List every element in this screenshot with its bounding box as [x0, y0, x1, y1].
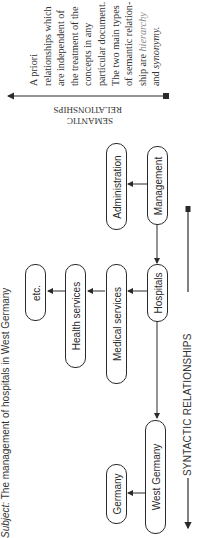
- node-health-services-label: Health services: [70, 282, 81, 350]
- desc-line: particular document.: [95, 0, 109, 86]
- semantic-relationships-label: SEMANTIC RELATIONSHIPS: [58, 104, 122, 126]
- desc-line: are independent of: [54, 0, 68, 86]
- node-germany: Germany: [106, 464, 127, 524]
- desc-line: concepts in any: [81, 0, 95, 86]
- desc-emphasis: synonymy.: [150, 27, 161, 69]
- desc-line: relationships which: [41, 0, 55, 86]
- node-west-germany: West Germany: [145, 420, 166, 534]
- desc-line: A priori: [27, 0, 41, 86]
- semantic-label-line1: SEMANTIC: [58, 115, 122, 126]
- node-administration-label: Administration: [111, 155, 122, 218]
- node-west-germany-label: West Germany: [150, 444, 161, 511]
- semantic-description: A priori relationships which are indepen…: [27, 0, 163, 86]
- node-medical-services: Medical services: [106, 264, 127, 384]
- node-germany-label: Germany: [111, 473, 122, 514]
- desc-line: ship are hierarchy: [136, 0, 150, 86]
- subject-prefix: Subject:: [0, 502, 11, 538]
- node-etc-label: etc.: [30, 284, 41, 300]
- node-health-services: Health services: [65, 264, 86, 368]
- subject-line: Subject: The management of hospitals in …: [0, 288, 11, 538]
- node-management-label: Management: [152, 156, 163, 214]
- desc-emphasis: hierarchy: [137, 12, 148, 51]
- node-etc: etc.: [25, 264, 46, 321]
- desc-line: the treatment of the: [68, 0, 82, 86]
- desc-text: and: [150, 69, 161, 86]
- node-medical-services-label: Medical services: [111, 287, 122, 361]
- node-administration: Administration: [106, 143, 127, 230]
- desc-line: of semantic relation-: [122, 0, 136, 86]
- semantic-arrow: [8, 93, 169, 99]
- node-management: Management: [147, 146, 168, 225]
- node-hospitals-label: Hospitals: [152, 272, 163, 313]
- syntactic-relationships-label: SYNTACTIC RELATIONSHIPS: [182, 333, 193, 476]
- desc-line: The two main types: [109, 0, 123, 86]
- desc-line: and synonymy.: [149, 0, 163, 86]
- desc-text: ship are: [137, 51, 148, 86]
- node-hospitals: Hospitals: [147, 264, 168, 322]
- semantic-label-line2: RELATIONSHIPS: [58, 104, 122, 115]
- subject-text: The management of hospitals in West Germ…: [0, 288, 11, 500]
